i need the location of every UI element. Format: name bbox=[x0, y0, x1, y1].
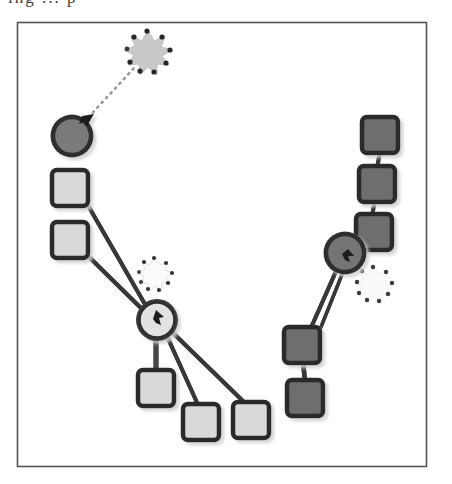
burst-dot bbox=[166, 281, 170, 285]
leaf-node-l5[interactable] bbox=[233, 402, 269, 438]
leaf-square-light bbox=[138, 370, 174, 406]
burst-dot bbox=[157, 288, 161, 292]
burst-dot bbox=[390, 281, 394, 285]
burst-dot bbox=[355, 280, 359, 284]
leaf-square-dark bbox=[284, 327, 320, 363]
burst-dot bbox=[151, 69, 156, 74]
burst-dot bbox=[131, 34, 136, 39]
leaf-square-dark bbox=[362, 117, 398, 153]
burst-dot bbox=[365, 298, 369, 302]
leaf-square-dark bbox=[359, 166, 395, 202]
agent-node-left[interactable] bbox=[136, 299, 178, 341]
burst-dot bbox=[357, 291, 361, 295]
leaf-square-light bbox=[183, 404, 219, 440]
burst-dot bbox=[163, 60, 168, 65]
burst-dot bbox=[152, 256, 156, 260]
burst-dot bbox=[386, 292, 390, 296]
leaf-node-r4[interactable] bbox=[284, 327, 320, 363]
burst-dot bbox=[125, 47, 130, 52]
agent-body-dark bbox=[54, 118, 90, 154]
leaf-node-r1[interactable] bbox=[362, 117, 398, 153]
leaf-node-r5[interactable] bbox=[287, 380, 323, 416]
agent-node-right[interactable] bbox=[324, 232, 367, 275]
burst-dot bbox=[142, 260, 146, 264]
burst-dot bbox=[139, 280, 143, 284]
node-link-diagram bbox=[0, 0, 452, 484]
leaf-square-light bbox=[52, 170, 88, 206]
leaf-square-light bbox=[233, 402, 269, 438]
burst-dot bbox=[164, 261, 168, 265]
burst-dot bbox=[159, 34, 164, 39]
burst-dot bbox=[144, 28, 149, 33]
burst-dot bbox=[137, 270, 141, 274]
burst-dot bbox=[167, 47, 172, 52]
leaf-node-l3[interactable] bbox=[138, 370, 174, 406]
leaf-node-l2[interactable] bbox=[52, 222, 88, 258]
burst-dot bbox=[146, 287, 150, 291]
burst-dot bbox=[137, 68, 142, 73]
figure-root: ing ... p bbox=[0, 0, 452, 484]
leaf-node-l1[interactable] bbox=[52, 170, 88, 206]
burst-dot bbox=[371, 265, 375, 269]
burst-dot bbox=[377, 299, 381, 303]
burst-dot bbox=[127, 59, 132, 64]
burst-dot bbox=[360, 269, 364, 273]
burst-dot bbox=[384, 270, 388, 274]
leaf-node-l4[interactable] bbox=[183, 404, 219, 440]
leaf-node-r2[interactable] bbox=[359, 166, 395, 202]
leaf-square-dark bbox=[287, 380, 323, 416]
burst-dot bbox=[170, 271, 174, 275]
leaf-square-light bbox=[52, 222, 88, 258]
